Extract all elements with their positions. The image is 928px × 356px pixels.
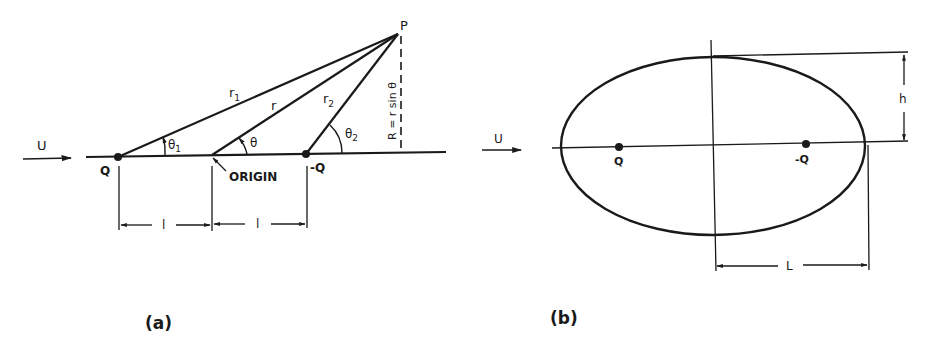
source-dot-icon bbox=[114, 153, 122, 161]
vertical-axis bbox=[711, 40, 716, 271]
half-spacing-left-label: l bbox=[162, 218, 165, 232]
source-dot-icon bbox=[615, 143, 623, 151]
theta2-arc bbox=[330, 125, 342, 153]
freestream-label: U bbox=[494, 132, 503, 146]
axis-line bbox=[86, 152, 446, 157]
source-label: Q bbox=[614, 155, 623, 168]
l-dim-extension bbox=[868, 145, 869, 270]
theta1-arc bbox=[163, 137, 165, 155]
r2-label: r2 bbox=[323, 91, 334, 109]
r1-label: r1 bbox=[229, 85, 240, 103]
freestream-label: U bbox=[37, 138, 47, 153]
panel-a-caption: (a) bbox=[145, 313, 172, 333]
sink-label: -Q bbox=[795, 153, 809, 166]
origin-pointer-arrow-icon bbox=[213, 158, 226, 171]
half-height-label: h bbox=[899, 92, 907, 106]
panel-b-caption: (b) bbox=[550, 308, 578, 328]
theta2-label: θ2 bbox=[345, 127, 358, 143]
sink-label: -Q bbox=[310, 161, 325, 175]
freestream-arrow-icon bbox=[23, 158, 71, 159]
half-length-label: L bbox=[786, 259, 793, 273]
theta-label: θ bbox=[250, 136, 257, 150]
rankine-oval-figure: U P r1 r r2 θ1 θ θ2 R = r sin θ Q -Q ORI… bbox=[0, 0, 928, 356]
panel-a: U P r1 r r2 θ1 θ θ2 R = r sin θ Q -Q ORI… bbox=[23, 18, 446, 333]
sink-dot-icon bbox=[302, 150, 310, 158]
half-spacing-right-label: l bbox=[256, 217, 259, 231]
panel-b: U Q -Q h L (b) bbox=[482, 40, 908, 328]
source-label: Q bbox=[100, 164, 110, 178]
sink-dot-icon bbox=[802, 140, 810, 148]
point-p-label: P bbox=[400, 18, 408, 33]
r-label: r bbox=[271, 98, 277, 113]
radius-expression-label: R = r sin θ bbox=[386, 82, 399, 140]
theta1-label: θ1 bbox=[168, 138, 181, 154]
theta-arc bbox=[239, 138, 247, 154]
origin-label: ORIGIN bbox=[229, 170, 277, 184]
horizontal-axis bbox=[552, 141, 908, 148]
top-tangent-line bbox=[713, 52, 908, 56]
